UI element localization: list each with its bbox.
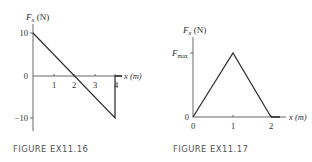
y-tick-label: 0: [185, 112, 189, 122]
x-tick-label: 1: [52, 80, 56, 90]
force-line: [193, 53, 271, 117]
y-tick-label: −10: [15, 113, 28, 123]
figure-ex11-16: Fx (N) 10 0 −10 1 2 3 4 x (m) FIGURE EX1…: [13, 12, 142, 154]
x-tick-label: 2: [269, 121, 273, 131]
x-tick-label: 1: [231, 121, 235, 131]
figures-canvas: Fx (N) 10 0 −10 1 2 3 4 x (m) FIGURE EX1…: [0, 0, 312, 162]
x-tick-label: 4: [114, 80, 119, 90]
force-line: [33, 33, 115, 118]
y-tick-label: 0: [24, 71, 28, 81]
x-tick-label: 0: [191, 121, 195, 131]
y-tick-label: 10: [20, 28, 29, 38]
y-axis-label: Fx (N): [25, 12, 49, 23]
x-tick-label: 2: [72, 80, 76, 90]
x-tick-label: 3: [93, 80, 97, 90]
figure-caption: FIGURE EX11.16: [13, 144, 88, 154]
x-axis-label: x (m): [288, 112, 307, 122]
x-axis-label: x (m): [123, 71, 142, 81]
figure-caption: FIGURE EX11.17: [173, 144, 248, 154]
figure-ex11-17: Fx (N) Fmax 0 0 1 2 x (m) FIGURE EX11.17: [171, 25, 307, 154]
y-axis-label: Fx (N): [182, 25, 206, 36]
y-tick-label-fmax: Fmax: [171, 48, 188, 59]
